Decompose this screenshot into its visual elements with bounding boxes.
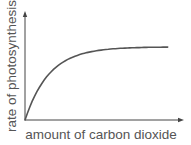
photosynthesis-curve [25, 47, 168, 120]
x-axis-label: amount of carbon dioxide [25, 127, 177, 142]
y-axis-label: rate of photosynthesis [4, 0, 19, 132]
graph-canvas [0, 0, 191, 145]
